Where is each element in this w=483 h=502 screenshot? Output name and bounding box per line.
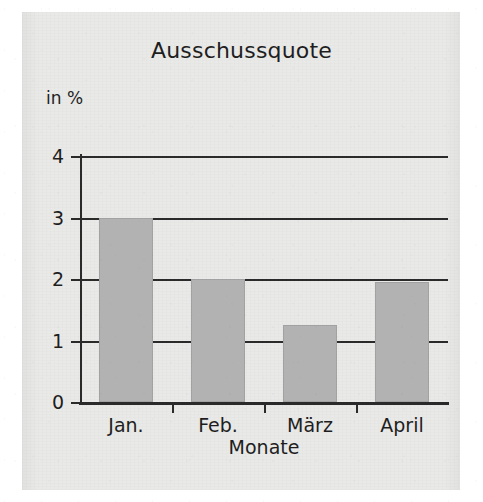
y-tick-label-3: 3 bbox=[30, 207, 64, 229]
y-tick-mark-3 bbox=[71, 218, 80, 220]
x-tick-mark-2 bbox=[264, 402, 266, 413]
paper-shadow-left bbox=[22, 12, 38, 490]
bar-april bbox=[375, 282, 429, 402]
plot-area: 01234 Jan.Feb.MärzApril bbox=[80, 156, 448, 402]
chart-title: Ausschussquote bbox=[0, 38, 483, 63]
gridline-4 bbox=[80, 156, 448, 158]
chart-figure: Ausschussquote in % 01234 Jan.Feb.MärzAp… bbox=[0, 0, 483, 502]
bar-jan bbox=[99, 218, 153, 403]
x-tick-label-april: April bbox=[342, 414, 462, 436]
x-tick-mark-3 bbox=[356, 402, 358, 413]
bar-feb bbox=[191, 279, 245, 402]
y-tick-mark-4 bbox=[71, 156, 80, 158]
bar-märz bbox=[283, 325, 337, 402]
y-tick-label-4: 4 bbox=[30, 145, 64, 167]
y-axis-unit-label: in % bbox=[46, 88, 83, 108]
y-axis-line bbox=[80, 154, 82, 404]
y-tick-label-2: 2 bbox=[30, 268, 64, 290]
x-tick-mark-1 bbox=[172, 402, 174, 413]
y-tick-label-0: 0 bbox=[30, 391, 64, 413]
y-tick-mark-1 bbox=[71, 341, 80, 343]
y-tick-mark-2 bbox=[71, 279, 80, 281]
y-tick-label-1: 1 bbox=[30, 330, 64, 352]
x-axis-title: Monate bbox=[80, 436, 448, 458]
